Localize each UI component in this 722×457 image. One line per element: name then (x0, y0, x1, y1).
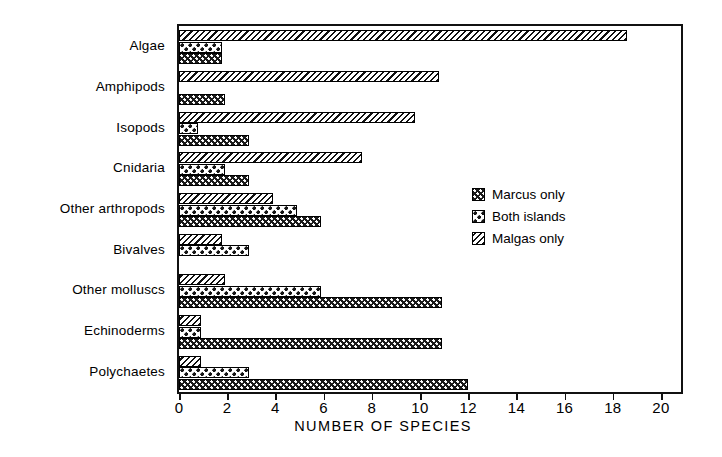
bar-cnidaria-marcus-only (179, 175, 249, 186)
tick-mark-14 (516, 394, 518, 400)
tick-label-18: 18 (604, 399, 621, 416)
legend-swatch-icon-marcus-only (472, 188, 485, 201)
category-label-other-molluscs: Other molluscs (72, 282, 165, 297)
bar-bivalves-both-islands (179, 245, 249, 256)
tick-label-0: 0 (175, 399, 184, 416)
bar-echinoderms-marcus-only (179, 338, 442, 349)
tick-mark-20 (661, 394, 663, 400)
tick-mark-18 (613, 394, 615, 400)
tick-label-2: 2 (223, 399, 232, 416)
tick-label-10: 10 (411, 399, 428, 416)
category-label-polychaetes: Polychaetes (89, 363, 165, 378)
bar-echinoderms-malgas-only (179, 315, 201, 326)
tick-mark-2 (227, 394, 229, 400)
legend-swatch-icon-malgas-only (472, 232, 485, 245)
bar-echinoderms-both-islands (179, 327, 201, 338)
bar-cnidaria-malgas-only (179, 152, 362, 163)
tick-mark-4 (275, 394, 277, 400)
category-axis-labels: AlgaeAmphipodsIsopodsCnidariaOther arthr… (0, 24, 171, 394)
chart-legend: Marcus onlyBoth islandsMalgas only (472, 184, 622, 250)
x-axis-title: NUMBER OF SPECIES (0, 418, 722, 434)
x-axis-title-text: NUMBER OF SPECIES (294, 418, 472, 434)
category-label-cnidaria: Cnidaria (113, 160, 165, 175)
bar-bivalves-malgas-only (179, 234, 222, 245)
bar-cnidaria-both-islands (179, 164, 225, 175)
tick-label-16: 16 (556, 399, 573, 416)
species-bar-chart: AlgaeAmphipodsIsopodsCnidariaOther arthr… (0, 0, 722, 457)
legend-label: Marcus only (492, 187, 565, 202)
bar-other-arthropods-both-islands (179, 205, 297, 216)
legend-swatch-icon-both-islands (472, 210, 485, 223)
tick-mark-10 (420, 394, 422, 400)
legend-item-malgas-only: Malgas only (472, 228, 622, 249)
bar-other-molluscs-marcus-only (179, 297, 442, 308)
bar-polychaetes-both-islands (179, 367, 249, 378)
tick-mark-16 (565, 394, 567, 400)
bar-other-arthropods-marcus-only (179, 216, 321, 227)
bar-polychaetes-malgas-only (179, 356, 201, 367)
bar-isopods-marcus-only (179, 135, 249, 146)
bar-algae-malgas-only (179, 30, 627, 41)
bar-isopods-both-islands (179, 123, 198, 134)
category-label-other-arthropods: Other arthropods (60, 201, 165, 216)
legend-label: Malgas only (492, 231, 564, 246)
tick-label-4: 4 (271, 399, 280, 416)
tick-label-20: 20 (652, 399, 669, 416)
category-label-isopods: Isopods (116, 119, 165, 134)
bar-amphipods-marcus-only (179, 94, 225, 105)
tick-label-12: 12 (460, 399, 477, 416)
bar-other-molluscs-malgas-only (179, 274, 225, 285)
bar-other-arthropods-malgas-only (179, 193, 273, 204)
tick-mark-12 (468, 394, 470, 400)
bar-algae-marcus-only (179, 53, 222, 64)
tick-mark-6 (324, 394, 326, 400)
legend-item-marcus-only: Marcus only (472, 184, 622, 205)
tick-label-6: 6 (319, 399, 328, 416)
bar-other-molluscs-both-islands (179, 286, 321, 297)
bar-isopods-malgas-only (179, 112, 415, 123)
bar-amphipods-malgas-only (179, 71, 439, 82)
category-label-echinoderms: Echinoderms (84, 323, 165, 338)
tick-label-8: 8 (367, 399, 376, 416)
bar-algae-both-islands (179, 42, 222, 53)
tick-label-14: 14 (508, 399, 525, 416)
category-label-bivalves: Bivalves (113, 241, 165, 256)
bar-polychaetes-marcus-only (179, 379, 468, 390)
tick-mark-8 (372, 394, 374, 400)
legend-item-both-islands: Both islands (472, 206, 622, 227)
tick-mark-0 (179, 394, 181, 400)
category-label-amphipods: Amphipods (96, 79, 165, 94)
legend-label: Both islands (492, 209, 566, 224)
category-label-algae: Algae (129, 38, 165, 53)
